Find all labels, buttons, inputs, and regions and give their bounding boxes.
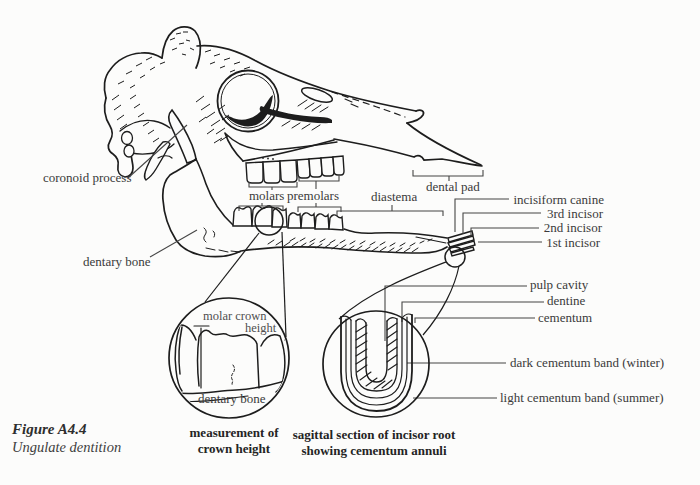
root-inset-circle xyxy=(323,311,429,417)
bulla-knob xyxy=(122,132,133,145)
paroccipital-process xyxy=(144,142,170,180)
root-fan-right xyxy=(423,266,459,335)
upper-premolar xyxy=(321,157,334,176)
label-diastema: diastema xyxy=(371,190,417,204)
dentine-leader xyxy=(402,302,544,322)
inset-molar-outline xyxy=(198,330,260,388)
inset-label-height: height xyxy=(245,321,276,335)
condyle-knob xyxy=(124,145,134,157)
root-outer-u xyxy=(341,315,412,411)
root-ring-2 xyxy=(346,317,407,405)
figure-page: coronoid process dentary bone molars pre… xyxy=(0,0,700,485)
crown-inset-content xyxy=(170,325,302,402)
label-second-incisor: 2nd incisor xyxy=(544,221,602,235)
mandible-ascending-edge xyxy=(196,159,233,225)
upper-molar xyxy=(263,161,280,183)
lacrimal-slit xyxy=(300,85,334,105)
label-premolars: premolars xyxy=(287,189,339,203)
figure-number: Figure A4.4 xyxy=(12,421,86,438)
diastema-bracket xyxy=(337,205,443,216)
inset-label-dentary-bone: dentary bone xyxy=(198,392,266,406)
label-dark-cementum-band: dark cementum band (winter) xyxy=(510,356,664,370)
upper-molar xyxy=(280,160,297,182)
lower-tooth-row xyxy=(233,206,343,235)
nasal-suture-dashed xyxy=(332,92,405,117)
figure-title: Ungulate dentition xyxy=(12,439,121,456)
label-dentine: dentine xyxy=(547,294,585,308)
third-incisor-leader xyxy=(463,213,541,234)
lower-molar xyxy=(233,207,252,226)
label-dental-pad: dental pad xyxy=(426,180,480,194)
crown-measure-line xyxy=(194,326,209,388)
crown-fan-left xyxy=(205,233,259,302)
facial-crest xyxy=(226,134,337,150)
label-molars: molars xyxy=(249,189,284,203)
diastema-dot xyxy=(262,157,264,159)
label-pulp-cavity: pulp cavity xyxy=(530,278,588,292)
inset-left-tooth xyxy=(175,325,196,391)
mandible xyxy=(163,110,447,257)
lower-premolar xyxy=(315,214,329,229)
lower-premolar xyxy=(301,213,315,228)
upper-premolar xyxy=(297,159,310,178)
upper-tooth-row xyxy=(246,156,344,183)
label-incisiform-canine: incisiform canine xyxy=(513,193,604,207)
root-wall-caps xyxy=(341,314,412,323)
dentine-hatch xyxy=(356,323,397,389)
pedicle-stipple xyxy=(170,32,194,55)
diastema-dot xyxy=(272,158,274,160)
second-incisor-leader xyxy=(471,228,539,236)
incisor-cluster xyxy=(445,231,475,267)
lower-premolar xyxy=(329,215,343,230)
lower-premolars-bracket xyxy=(298,203,341,212)
nasal-tip-curl xyxy=(407,110,424,123)
label-first-incisor: 1st incisor xyxy=(546,236,600,250)
label-light-cementum-band: light cementum band (summer) xyxy=(500,391,664,405)
upper-premolar xyxy=(309,158,322,177)
diastema-hatch-row1 xyxy=(268,240,418,252)
root-inset-caption-line2: showing cementum annuli xyxy=(277,443,471,458)
diastema-crest xyxy=(344,229,447,238)
masseteric-squiggles xyxy=(204,228,215,242)
premaxilla-lower-edge xyxy=(334,139,482,166)
frontal-nasal-profile xyxy=(197,46,416,111)
upper-molar xyxy=(246,162,263,183)
horn-pedicle xyxy=(162,27,200,68)
pulp-cavity-leader xyxy=(385,286,527,341)
diastema-dot xyxy=(267,158,269,160)
label-dentary-bone: dentary bone xyxy=(83,255,151,269)
maxilla-front-edge xyxy=(225,133,243,161)
root-inset-caption-line1: sagittal section of incisor root xyxy=(277,427,471,442)
squamosal-curve xyxy=(120,120,170,131)
orbit xyxy=(218,71,279,132)
label-third-incisor: 3rd incisor xyxy=(547,207,603,221)
dome-stipple xyxy=(118,50,250,88)
label-coronoid-process: coronoid process xyxy=(43,171,131,185)
label-cementum: cementum xyxy=(538,311,592,325)
dentine-outer-edge xyxy=(356,319,397,391)
angle-hatch xyxy=(206,248,240,252)
root-inset-drawing xyxy=(323,311,429,417)
root-fan-left xyxy=(339,262,446,319)
upper-premolar xyxy=(333,156,344,175)
lower-premolar xyxy=(288,213,301,228)
coronoid-process-shape xyxy=(169,110,196,163)
root-squiggle xyxy=(232,365,235,386)
inset-right-tooth xyxy=(261,335,302,392)
braincase-dome xyxy=(104,53,162,98)
